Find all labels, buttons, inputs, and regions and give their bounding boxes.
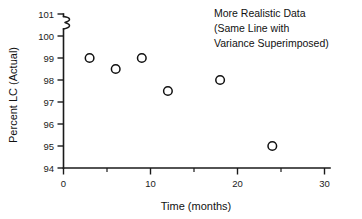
data-point: [111, 65, 120, 74]
data-series-markers: [85, 54, 276, 151]
data-point: [164, 87, 173, 96]
data-point: [85, 54, 94, 63]
y-tick-label-100: 100: [38, 31, 54, 42]
annotation-line-2: (Same Line with: [214, 22, 289, 34]
x-axis-title: Time (months): [161, 200, 232, 212]
y-tick-label-99: 99: [43, 53, 54, 64]
y-axis-title: Percent LC (Actual): [7, 47, 19, 143]
y-tick-label-98: 98: [43, 75, 54, 86]
data-point: [268, 142, 277, 151]
y-axis-ticks: [58, 14, 64, 168]
y-tick-label-101: 101: [38, 9, 54, 20]
x-tick-label-0: 0: [61, 178, 66, 189]
x-tick-label-20: 20: [232, 178, 243, 189]
x-tick-label-30: 30: [319, 178, 330, 189]
y-tick-label-97: 97: [43, 97, 54, 108]
y-tick-label-94: 94: [43, 163, 54, 174]
y-tick-label-95: 95: [43, 141, 54, 152]
annotation-line-1: More Realistic Data: [214, 7, 306, 19]
y-axis-tick-labels: 101 100 99 98 97 96 95 94: [38, 9, 54, 174]
annotation-line-3: Variance Superimposed): [214, 37, 329, 49]
x-axis-tick-labels: 0 10 20 30: [61, 178, 330, 189]
chart-annotation: More Realistic Data (Same Line with Vari…: [214, 7, 329, 49]
x-axis-ticks: [64, 168, 325, 175]
x-tick-label-10: 10: [145, 178, 156, 189]
y-tick-label-96: 96: [43, 119, 54, 130]
y-axis-break-icon: [64, 17, 70, 30]
data-point: [138, 54, 147, 63]
scatter-plot: 101 100 99 98 97 96 95 94 0 10 20 30: [0, 0, 362, 219]
data-point: [216, 76, 225, 85]
chart-page: 101 100 99 98 97 96 95 94 0 10 20 30: [0, 0, 362, 219]
